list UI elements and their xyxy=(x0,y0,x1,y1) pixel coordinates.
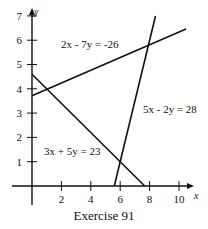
x-axis-arrow-icon xyxy=(187,183,194,189)
svg-text:4: 4 xyxy=(88,193,94,205)
label-5x-2y: 5x - 2y = 28 xyxy=(143,103,197,115)
svg-text:8: 8 xyxy=(147,193,153,205)
label-2x-7y: 2x - 7y = -26 xyxy=(61,38,119,50)
y-tick-labels: 1 2 3 4 5 6 7 xyxy=(17,10,23,168)
svg-text:1: 1 xyxy=(17,156,23,168)
svg-text:3: 3 xyxy=(17,107,23,119)
svg-text:10: 10 xyxy=(174,193,186,205)
svg-text:6: 6 xyxy=(17,34,23,46)
svg-text:4: 4 xyxy=(17,83,23,95)
x-axis-label: x xyxy=(193,190,199,201)
y-axis-label: y xyxy=(33,6,39,17)
svg-text:6: 6 xyxy=(117,193,123,205)
x-tick-labels: 2 4 6 8 10 xyxy=(59,193,185,205)
svg-text:2: 2 xyxy=(59,193,65,205)
svg-text:5: 5 xyxy=(17,58,23,70)
svg-text:2: 2 xyxy=(17,131,23,143)
svg-text:7: 7 xyxy=(17,10,23,22)
line-5x-2y xyxy=(114,16,155,186)
chart-plot: x y 2 4 6 8 10 1 2 3 4 5 6 7 2x - 7y = xyxy=(0,0,208,229)
label-3x-5y: 3x + 5y = 23 xyxy=(44,145,101,157)
figure-caption: Exercise 91 xyxy=(0,208,208,224)
